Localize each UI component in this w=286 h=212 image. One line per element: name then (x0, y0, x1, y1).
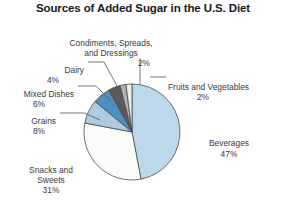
pie-wedges (84, 84, 180, 180)
label-condiments-pct: 2% (131, 48, 157, 68)
pie-slice-beverages (132, 84, 180, 179)
label-fruits-pct: 2% (186, 82, 220, 102)
label-grains-pct: 8% (22, 116, 56, 136)
label-beverages-pct: 47% (212, 139, 246, 159)
pie-chart-figure: Sources of Added Sugar in the U.S. Diet … (0, 0, 286, 212)
label-snacks-pct: 31% (34, 175, 68, 195)
leader-line-dairy (88, 62, 117, 86)
